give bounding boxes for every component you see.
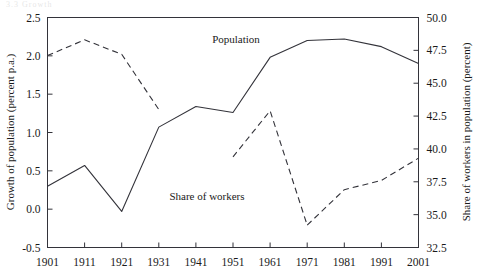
x-tick-label: 1951 <box>222 256 245 268</box>
y2-tick-label: 47.5 <box>427 44 447 56</box>
x-tick-label: 1961 <box>259 256 282 268</box>
series-segment-0 <box>48 40 159 110</box>
y-tick-label: 1.0 <box>26 127 41 139</box>
x-axis-ticks <box>85 243 382 248</box>
x-tick-label: 1901 <box>36 256 59 268</box>
y2-tick-label: 45.0 <box>427 77 447 89</box>
y-tick-label: 1.5 <box>26 88 41 100</box>
x-tick-label: 1981 <box>333 256 356 268</box>
series-segment-2 <box>307 158 418 225</box>
line-chart-canvas: -0.50.00.51.01.52.02.5 32.535.037.540.04… <box>0 0 479 278</box>
y2-tick-label: 50.0 <box>427 12 447 24</box>
y2-axis-tick-labels: 32.535.037.540.042.545.047.550.0 <box>427 12 447 254</box>
y-tick-label: 2.0 <box>26 50 41 62</box>
y2-axis-title: Share of workers in population (percent) <box>460 42 473 221</box>
y2-tick-label: 32.5 <box>427 242 447 254</box>
plot-frame <box>48 18 419 248</box>
series-annotation-population: Population <box>212 33 260 45</box>
y-tick-label: 2.5 <box>26 12 41 24</box>
x-tick-label: 1991 <box>370 256 393 268</box>
chart-figure: 3.3 Growth -0.50.00.51.01.52.02.5 32.535… <box>0 0 479 278</box>
x-tick-label: 1971 <box>296 256 319 268</box>
y-tick-label: -0.5 <box>22 242 40 254</box>
series-annotation-share-of-workers: Share of workers <box>169 190 244 202</box>
x-tick-label: 2001 <box>407 256 430 268</box>
y2-tick-label: 40.0 <box>427 143 447 155</box>
y-tick-label: 0.0 <box>26 203 41 215</box>
y2-tick-label: 42.5 <box>427 110 447 122</box>
y2-tick-label: 37.5 <box>427 176 447 188</box>
y-axis-ticks <box>48 18 53 248</box>
x-tick-label: 1931 <box>147 256 170 268</box>
y2-tick-label: 35.0 <box>427 209 447 221</box>
y-axis-title: Growth of population (percent p.a.) <box>4 53 17 210</box>
series-segment-1 <box>233 111 307 225</box>
x-tick-label: 1941 <box>184 256 207 268</box>
x-tick-label: 1911 <box>73 256 96 268</box>
y-axis-tick-labels: -0.50.00.51.01.52.02.5 <box>22 12 40 254</box>
y-tick-label: 0.5 <box>26 165 41 177</box>
x-axis-tick-labels: 1901191119211931194119511961197119811991… <box>36 256 430 268</box>
y2-axis-ticks <box>414 18 419 248</box>
x-tick-label: 1921 <box>110 256 133 268</box>
